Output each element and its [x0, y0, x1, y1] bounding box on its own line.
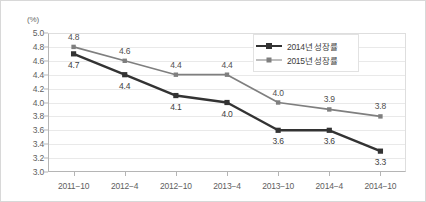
gridline	[49, 144, 405, 145]
x-axis-tick-mark	[74, 172, 75, 176]
gridline	[49, 89, 405, 90]
legend-item-2014[interactable]: 2014년 성장률	[256, 39, 356, 53]
y-axis-tick-mark	[44, 172, 48, 173]
data-point-label: 3.6	[273, 136, 284, 146]
y-axis-unit-label: (%)	[27, 15, 39, 24]
y-axis-tick-label: 4.2	[20, 84, 44, 94]
data-point-label: 4.4	[119, 81, 130, 91]
y-axis-tick-label: 3.0	[20, 167, 44, 177]
data-point-label: 4.0	[273, 88, 284, 98]
data-point-label: 4.8	[68, 32, 79, 42]
y-axis-tick-label: 3.4	[20, 139, 44, 149]
data-point-label: 4.4	[170, 60, 181, 70]
legend: 2014년 성장률2015년 성장률	[253, 34, 359, 72]
y-axis-tick-label: 5.0	[20, 28, 44, 38]
y-axis-tick-mark	[44, 130, 48, 131]
y-axis-tick-label: 4.6	[20, 56, 44, 66]
y-axis-tick-mark	[44, 60, 48, 61]
data-point-label: 4.0	[221, 109, 232, 119]
y-axis-tick-label: 4.0	[20, 98, 44, 108]
y-axis-tick-mark	[44, 102, 48, 103]
data-point-label: 4.4	[221, 60, 232, 70]
x-axis-tick-label: 2014−10	[364, 181, 396, 191]
gridline	[49, 103, 405, 104]
x-axis-tick-label: 2012−10	[160, 181, 192, 191]
chart-figure: (%) 5.04.84.64.44.24.03.83.63.43.23.0 20…	[0, 0, 426, 202]
x-axis-tick-mark	[227, 172, 228, 176]
y-axis-tick-mark	[44, 116, 48, 117]
legend-marker-icon	[256, 55, 282, 65]
y-axis-tick-label: 4.4	[20, 70, 44, 80]
gridline	[49, 130, 405, 131]
legend-label: 2015년 성장률	[287, 54, 338, 66]
x-axis-tick-mark	[176, 172, 177, 176]
y-axis-tick-label: 3.8	[20, 111, 44, 121]
y-axis-tick-mark	[44, 158, 48, 159]
x-axis-tick-mark	[329, 172, 330, 176]
gridline	[49, 75, 405, 76]
legend-label: 2014년 성장률	[287, 40, 338, 52]
data-point-label: 4.6	[119, 46, 130, 56]
x-axis-tick-mark	[278, 172, 279, 176]
y-axis-tick-label: 3.2	[20, 153, 44, 163]
x-axis-tick-label: 2014−4	[316, 181, 343, 191]
data-point-label: 3.6	[324, 136, 335, 146]
x-axis-tick-mark	[125, 172, 126, 176]
legend-marker-icon	[256, 41, 282, 51]
y-axis-tick-label: 3.6	[20, 125, 44, 135]
x-axis-tick-mark	[380, 172, 381, 176]
data-point-label: 3.9	[324, 94, 335, 104]
x-axis-tick-label: 2012−4	[111, 181, 138, 191]
data-point-label: 4.7	[68, 60, 79, 70]
x-axis-tick-label: 2013−4	[213, 181, 240, 191]
data-point-label: 3.8	[375, 101, 386, 111]
y-axis-tick-mark	[44, 88, 48, 89]
x-axis-tick-label: 2011−10	[58, 181, 89, 191]
y-axis-tick-mark	[44, 144, 48, 145]
y-axis-tick-mark	[44, 46, 48, 47]
data-point-label: 4.1	[170, 102, 181, 112]
legend-item-2015[interactable]: 2015년 성장률	[256, 53, 356, 67]
y-axis-tick-label: 4.8	[20, 42, 44, 52]
x-axis-tick-label: 2013−10	[262, 181, 294, 191]
gridline	[49, 158, 405, 159]
y-axis-tick-mark	[44, 74, 48, 75]
data-point-label: 3.3	[375, 157, 386, 167]
y-axis-tick-mark	[44, 33, 48, 34]
